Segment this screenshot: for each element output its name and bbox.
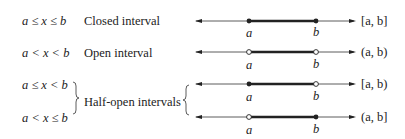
notation-half-open-right: [a, b) <box>361 78 387 91</box>
notation-half-open-left: (a, b] <box>361 111 387 124</box>
notation-open: (a, b) <box>361 46 387 59</box>
endpoint-a-closed <box>247 82 252 87</box>
point-label-a: a <box>246 91 252 104</box>
point-label-a: a <box>246 27 252 40</box>
endpoint-a-closed <box>247 19 252 24</box>
number-line-open <box>195 50 356 55</box>
endpoint-b-closed <box>314 19 319 24</box>
endpoint-b-open <box>314 82 319 87</box>
point-label-b: b <box>313 90 319 103</box>
point-label-b: b <box>313 26 319 39</box>
point-label-a: a <box>246 124 252 137</box>
point-label-b: b <box>313 123 319 136</box>
brace-left-group <box>73 82 79 114</box>
brace-right-group <box>183 85 189 115</box>
endpoint-a-open <box>247 50 252 55</box>
number-lines <box>0 0 405 139</box>
endpoint-b-open <box>314 50 319 55</box>
number-line-half-open-right <box>195 82 356 87</box>
endpoint-a-open <box>247 115 252 120</box>
endpoint-b-closed <box>314 115 319 120</box>
number-line-closed <box>195 19 356 24</box>
point-label-b: b <box>313 58 319 71</box>
notation-closed: [a, b] <box>361 15 387 28</box>
number-line-half-open-left <box>195 115 356 120</box>
point-label-a: a <box>246 59 252 72</box>
